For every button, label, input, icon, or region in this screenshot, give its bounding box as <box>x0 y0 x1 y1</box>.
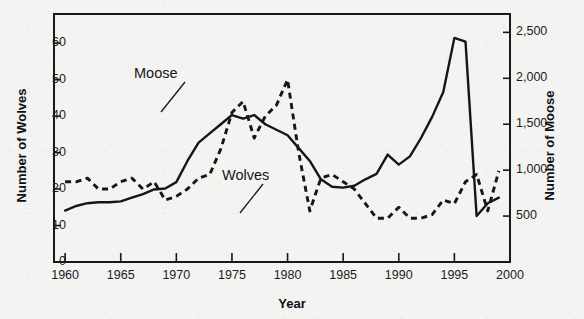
axis-tick-label: 2,500 <box>516 24 547 38</box>
axis-tick-label: 1980 <box>265 268 311 282</box>
annotation-wolves: Wolves <box>222 167 269 183</box>
axis-tick-label: 10 <box>20 218 66 232</box>
axis-tick-label: 60 <box>20 35 66 49</box>
axis-tick-label: 2,000 <box>516 70 547 84</box>
y-axis-right-title: Number of Moose <box>542 86 557 206</box>
axis-tick-label: 1,500 <box>516 116 547 130</box>
axis-tick-label: 1970 <box>153 268 199 282</box>
x-axis-title: Year <box>0 296 584 311</box>
axis-tick-label: 1975 <box>209 268 255 282</box>
right-axis-ticks <box>503 32 510 216</box>
axis-tick-label: 1960 <box>42 268 88 282</box>
wolves-leader-line <box>240 184 263 213</box>
axis-tick-label: 1995 <box>431 268 477 282</box>
axis-tick-label: 1965 <box>98 268 144 282</box>
moose-leader-line <box>161 82 185 112</box>
axis-tick-label: 30 <box>20 145 66 159</box>
x-axis-ticks <box>65 253 510 262</box>
axis-tick-label: 20 <box>20 181 66 195</box>
axis-tick-label: 1,000 <box>516 162 547 176</box>
axis-tick-label: 0 <box>20 254 66 268</box>
axis-tick-label: 40 <box>20 108 66 122</box>
chart-figure: Moose Wolves Number of Wolves Number of … <box>0 0 584 319</box>
axis-tick-label: 1985 <box>320 268 366 282</box>
axis-tick-label: 500 <box>516 208 537 222</box>
axis-tick-label: 2000 <box>487 268 533 282</box>
axis-tick-label: 50 <box>20 72 66 86</box>
series-line-moose <box>65 38 499 216</box>
annotation-moose: Moose <box>134 65 178 81</box>
axis-tick-label: 1990 <box>376 268 422 282</box>
plot-frame <box>54 14 510 262</box>
